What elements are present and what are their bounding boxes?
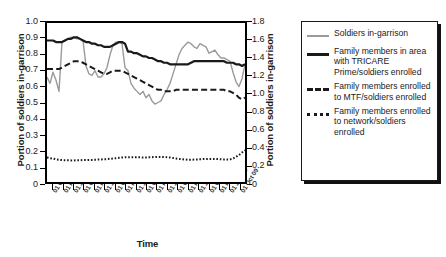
x-axis-title: Time [40,238,255,249]
y-tick-mark-right [247,21,252,22]
chart-page: Portion of soldiers in-garrison Portion … [0,0,446,257]
y-tick-label-right: 0.4 [252,143,292,152]
dotted-line-icon [307,108,329,120]
y-tick-label-left: 0.2 [0,147,38,156]
y-tick-mark-right [247,39,252,40]
series-canvas [47,23,245,182]
legend-item-label: Family members enrolled to MTF/soldiers … [334,81,432,102]
legend-item-label: Family members in area with TRICARE Prim… [334,46,432,77]
y-tick-label-left: 0.8 [0,49,38,58]
y-tick-label-left: 0.9 [0,33,38,42]
y-tick-label-right: 0.8 [252,107,292,116]
legend-item[interactable]: Family members enrolled to network/soldi… [307,106,432,137]
y-tick-label-left: 0.1 [0,163,38,172]
y-tick-label-left: 0.4 [0,114,38,123]
y-tick-label-right: 1.2 [252,71,292,80]
dashed-line-icon [307,83,329,95]
y-tick-mark-right [247,57,252,58]
y-tick-label-left: 0.5 [0,98,38,107]
legend-item[interactable]: Family members in area with TRICARE Prim… [307,46,432,77]
y-tick-label-right: 1.4 [252,53,292,62]
y-tick-mark-right [247,112,252,113]
legend-swatch-line [307,113,329,116]
chart-legend: Soldiers in-garrisonFamily members in ar… [301,21,438,181]
legend-item-label: Soldiers in-garrison [334,28,408,38]
y-tick-mark-left [40,184,45,185]
series-line-0 [47,37,245,104]
y-tick-label-right: 1.0 [252,89,292,98]
plot-area [45,21,247,184]
y-tick-mark-right [247,166,252,167]
legend-item-label: Family members enrolled to network/soldi… [334,106,432,137]
y-tick-label-right: 0 [252,180,292,189]
series-line-2 [47,61,245,99]
y-tick-label-right: 0.6 [252,125,292,134]
solid-black-line-icon [307,48,329,60]
y-tick-mark-right [247,93,252,94]
chart-figure: Portion of soldiers in-garrison Portion … [0,0,290,257]
legend-item[interactable]: Soldiers in-garrison [307,28,432,42]
y-tick-mark-right [247,130,252,131]
legend-swatch-line [307,53,329,56]
series-line-3 [47,150,245,160]
y-tick-label-left: 0 [0,180,38,189]
y-tick-mark-right [247,148,252,149]
solid-gray-line-icon [307,30,329,42]
y-tick-mark-right [247,75,252,76]
y-tick-label-left: 0.6 [0,82,38,91]
y-tick-label-left: 1.0 [0,17,38,26]
y-tick-label-right: 1.8 [252,17,292,26]
y-tick-label-left: 0.7 [0,65,38,74]
legend-swatch-line [307,88,329,91]
legend-item[interactable]: Family members enrolled to MTF/soldiers … [307,81,432,102]
legend-swatch-line [307,35,329,37]
y-tick-label-right: 1.6 [252,35,292,44]
y-tick-label-left: 0.3 [0,131,38,140]
